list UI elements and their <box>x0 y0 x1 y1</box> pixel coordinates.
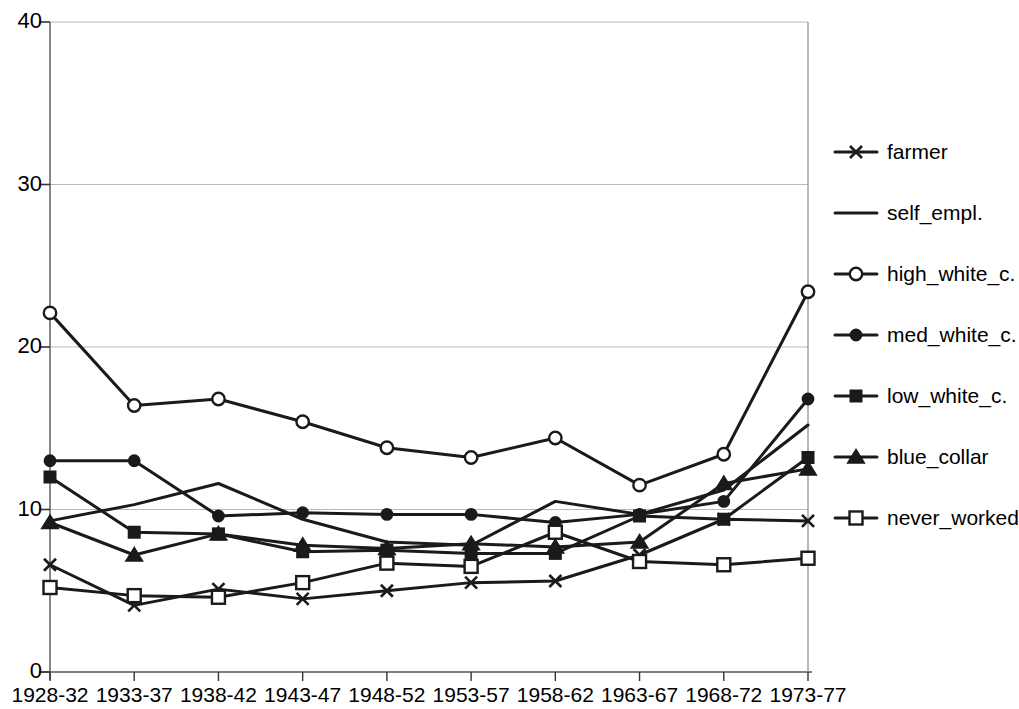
x-axis-tick-labels: 1928-321933-371938-421943-471948-521953-… <box>0 682 830 709</box>
marker-filled-circle <box>381 509 392 520</box>
x-tick-label: 1963-67 <box>592 682 688 707</box>
marker-filled-square <box>634 510 645 521</box>
marker-open-square <box>802 552 815 565</box>
plot-area <box>0 0 830 709</box>
marker-filled-square <box>129 527 140 538</box>
y-tick-label: 10 <box>18 498 42 520</box>
series-line <box>50 425 808 545</box>
legend-label: self_empl. <box>887 200 983 226</box>
marker-open-circle <box>802 286 814 298</box>
plot-svg <box>0 0 830 709</box>
legend-marker-icon <box>833 383 879 409</box>
marker-filled-circle <box>718 496 729 507</box>
marker-open-circle <box>850 268 862 280</box>
marker-open-circle <box>296 416 308 428</box>
y-tick-label: 0 <box>30 660 42 682</box>
marker-open-square <box>380 557 393 570</box>
marker-open-square <box>717 558 730 571</box>
y-axis-tick-labels: 010203040 <box>0 0 42 709</box>
series-line <box>50 292 808 485</box>
marker-filled-circle <box>466 509 477 520</box>
legend-marker-icon <box>833 200 879 226</box>
x-tick-label: 1948-52 <box>339 682 435 707</box>
legend-marker-icon <box>833 505 879 531</box>
legend-label: low_white_c. <box>887 383 1007 409</box>
marker-open-circle <box>718 448 730 460</box>
x-tick-label: 1928-32 <box>2 682 98 707</box>
legend-marker-icon <box>833 322 879 348</box>
legend-label: farmer <box>887 139 948 165</box>
marker-open-circle <box>212 393 224 405</box>
marker-open-circle <box>381 442 393 454</box>
marker-open-square <box>549 526 562 539</box>
marker-open-circle <box>44 307 56 319</box>
x-tick-label: 1973-77 <box>760 682 856 707</box>
marker-open-square <box>212 591 225 604</box>
legend-item-self_empl[interactable]: self_empl. <box>833 200 983 226</box>
legend-label: blue_collar <box>887 444 989 470</box>
marker-filled-triangle <box>42 515 59 528</box>
marker-filled-square <box>718 514 729 525</box>
legend-item-low_white_c[interactable]: low_white_c. <box>833 383 1007 409</box>
y-tick-label: 40 <box>18 10 42 32</box>
marker-filled-circle <box>129 455 140 466</box>
marker-open-circle <box>128 399 140 411</box>
legend-label: never_worked <box>887 505 1019 531</box>
marker-open-square <box>850 512 863 525</box>
marker-filled-circle <box>850 329 861 340</box>
y-tick-label: 30 <box>18 173 42 195</box>
x-tick-label: 1958-62 <box>507 682 603 707</box>
marker-open-square <box>128 589 141 602</box>
x-tick-label: 1953-57 <box>423 682 519 707</box>
marker-filled-circle <box>44 455 55 466</box>
legend-marker-icon <box>833 139 879 165</box>
legend-marker-icon <box>833 261 879 287</box>
series-never_worked <box>44 526 815 604</box>
marker-open-square <box>633 555 646 568</box>
x-tick-label: 1943-47 <box>255 682 351 707</box>
marker-filled-circle <box>297 507 308 518</box>
x-tick-label: 1938-42 <box>170 682 266 707</box>
legend-label: high_white_c. <box>887 261 1015 287</box>
legend-item-med_white_c[interactable]: med_white_c. <box>833 322 1017 348</box>
marker-filled-circle <box>802 393 813 404</box>
marker-open-square <box>296 576 309 589</box>
legend-item-blue_collar[interactable]: blue_collar <box>833 444 989 470</box>
legend-item-farmer[interactable]: farmer <box>833 139 948 165</box>
legend-label: med_white_c. <box>887 322 1017 348</box>
series-med_white_c <box>44 393 813 528</box>
legend-item-never_worked[interactable]: never_worked <box>833 505 1019 531</box>
marker-open-circle <box>549 432 561 444</box>
marker-filled-square <box>44 471 55 482</box>
series-high_white_c <box>44 286 814 492</box>
marker-filled-square <box>850 390 861 401</box>
legend-marker-icon <box>833 444 879 470</box>
x-tick-label: 1968-72 <box>676 682 772 707</box>
marker-open-circle <box>633 479 645 491</box>
y-tick-label: 20 <box>18 335 42 357</box>
series-self_empl <box>50 425 808 545</box>
marker-open-circle <box>465 451 477 463</box>
marker-open-square <box>44 581 57 594</box>
legend-item-high_white_c[interactable]: high_white_c. <box>833 261 1015 287</box>
x-tick-label: 1933-37 <box>86 682 182 707</box>
marker-filled-circle <box>213 510 224 521</box>
marker-open-square <box>465 560 478 573</box>
